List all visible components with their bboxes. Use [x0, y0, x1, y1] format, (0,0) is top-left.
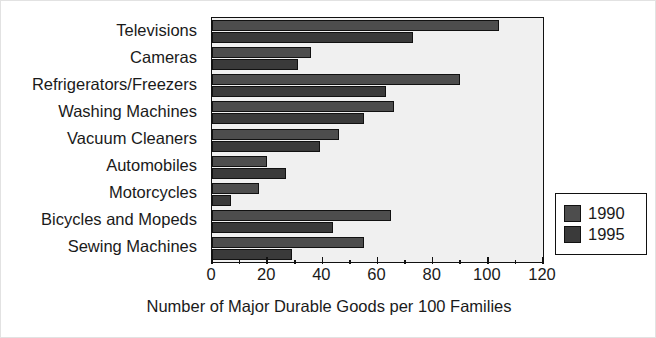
x-axis-major-tick: [322, 257, 324, 264]
x-axis-minor-tick: [239, 260, 241, 264]
bar-1990-sewing-machines: [212, 237, 364, 248]
bar-1990-refrigerators-freezers: [212, 74, 460, 85]
category-label: Washing Machines: [1, 103, 197, 120]
legend-label: 1990: [588, 205, 625, 222]
bar-1990-washing-machines: [212, 101, 394, 112]
bar-1995-refrigerators-freezers: [212, 86, 386, 97]
plot-area: [211, 17, 544, 263]
bar-1995-vacuum-cleaners: [212, 141, 320, 152]
category-label: Bicycles and Mopeds: [1, 211, 197, 228]
bar-1995-washing-machines: [212, 113, 364, 124]
category-label: Motorcycles: [1, 184, 197, 201]
category-label: Cameras: [1, 49, 197, 66]
x-axis-minor-tick: [404, 260, 406, 264]
category-label: Vacuum Cleaners: [1, 130, 197, 147]
x-tick-label: 120: [528, 265, 556, 284]
x-axis-major-tick: [266, 257, 268, 264]
bar-1995-automobiles: [212, 168, 286, 179]
bar-1990-motorcycles: [212, 183, 259, 194]
x-tick-label: 0: [206, 265, 215, 284]
bar-1990-televisions: [212, 20, 499, 31]
x-axis-minor-tick: [294, 260, 296, 264]
x-axis-major-tick: [432, 257, 434, 264]
x-axis-major-tick: [377, 257, 379, 264]
chart-legend: 19901995: [555, 193, 647, 255]
bar-1995-sewing-machines: [212, 249, 292, 260]
bar-chart-figure: TelevisionsCamerasRefrigerators/Freezers…: [0, 0, 656, 338]
legend-entry[interactable]: 1990: [564, 205, 625, 222]
x-tick-label: 20: [257, 265, 275, 284]
x-tick-label: 60: [367, 265, 385, 284]
legend-color-swatch: [564, 226, 581, 243]
x-axis-minor-tick: [349, 260, 351, 264]
x-tick-label: 100: [473, 265, 501, 284]
bar-1990-cameras: [212, 47, 311, 58]
x-axis-major-tick: [487, 257, 489, 264]
bar-1995-cameras: [212, 59, 298, 70]
bar-1990-vacuum-cleaners: [212, 129, 339, 140]
x-axis-minor-tick: [515, 260, 517, 264]
x-axis-minor-tick: [459, 260, 461, 264]
bar-1990-bicycles-and-mopeds: [212, 210, 391, 221]
bar-1995-motorcycles: [212, 195, 231, 206]
legend-entry[interactable]: 1995: [564, 226, 625, 243]
x-axis-title: Number of Major Durable Goods per 100 Fa…: [1, 297, 656, 316]
category-label: Refrigerators/Freezers: [1, 76, 197, 93]
x-axis-major-tick: [211, 257, 213, 264]
x-tick-label: 80: [422, 265, 440, 284]
bar-1995-televisions: [212, 32, 413, 43]
bar-1990-automobiles: [212, 156, 267, 167]
category-label: Sewing Machines: [1, 238, 197, 255]
category-label: Televisions: [1, 22, 197, 39]
legend-label: 1995: [588, 226, 625, 243]
x-axis-major-tick: [542, 257, 544, 264]
legend-color-swatch: [564, 205, 581, 222]
x-tick-label: 40: [312, 265, 330, 284]
category-axis-labels: TelevisionsCamerasRefrigerators/Freezers…: [1, 17, 204, 261]
bar-1995-bicycles-and-mopeds: [212, 222, 333, 233]
category-label: Automobiles: [1, 157, 197, 174]
